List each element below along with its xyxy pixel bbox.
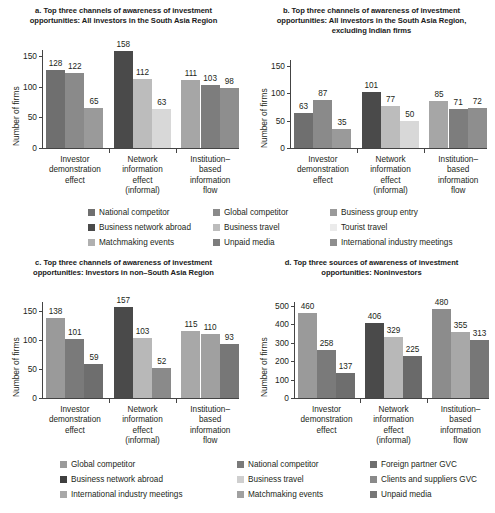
panel-d-plot: Number of firms0100200300400500460258137… (248, 302, 495, 454)
legend-label: Unpaid media (381, 490, 432, 499)
bar-value-label: 406 (362, 312, 387, 321)
legend-item: Business travel (237, 475, 304, 484)
bar (181, 80, 200, 148)
bar (298, 313, 317, 398)
legend-swatch (237, 476, 244, 483)
bar (84, 364, 103, 398)
legend-item: Global competitor (60, 460, 135, 469)
legend-item: Tourist travel (330, 223, 387, 232)
y-axis-line (42, 302, 43, 398)
bar (317, 350, 336, 398)
x-axis-tick-mark (176, 399, 177, 403)
panel-c-title: c. Top three channels of awareness of in… (0, 258, 247, 278)
panel-b-plot: Number of firms050100150638735Investorde… (248, 60, 495, 205)
y-axis-tick-mark (287, 93, 290, 94)
bar-value-label: 52 (149, 357, 174, 366)
bar-value-label: 158 (111, 40, 136, 49)
legend-item: Clients and suppliers GVC (370, 475, 477, 484)
x-axis-category-label: Networkinformationeffect(informal) (106, 155, 180, 197)
panel-a-plot: Number of firms05010015012812265Investor… (0, 50, 247, 205)
y-axis-tick-label: 0 (14, 393, 37, 403)
y-axis-tick-label: 100 (266, 375, 289, 385)
bar-value-label: 103 (130, 327, 155, 336)
legend-swatch (213, 209, 220, 216)
panel-a-title: a. Top three channels of awareness of in… (0, 6, 247, 26)
y-axis-tick-mark (287, 121, 290, 122)
legend-swatch (370, 491, 377, 498)
x-axis-category-label: Investordemonstrationeffect (286, 155, 360, 186)
legend-swatch (237, 491, 244, 498)
y-axis-tick-label: 0 (266, 393, 289, 403)
x-axis-category-label: Networkinformationeffect(informal) (106, 405, 180, 447)
x-axis-line (42, 398, 239, 399)
y-axis-tick-mark (39, 398, 42, 399)
legend-swatch (60, 476, 67, 483)
legend-item: Business group entry (330, 208, 418, 217)
y-axis-tick-label: 50 (262, 116, 285, 126)
bar (220, 88, 239, 148)
bar (332, 129, 351, 148)
legend-swatch (88, 224, 95, 231)
bar (201, 85, 220, 148)
legend-item: Global competitor (213, 208, 288, 217)
legend-item: Matchmaking events (88, 238, 174, 247)
bar (451, 332, 470, 398)
legend-item: National competitor (237, 460, 319, 469)
bar-value-label: 87 (310, 89, 335, 98)
y-axis-tick-label: 150 (14, 306, 37, 316)
x-axis-tick-mark (109, 149, 110, 153)
x-axis-category-label: Investordemonstrationeffect (38, 155, 112, 186)
y-axis-tick-mark (39, 311, 42, 312)
bar-value-label: 110 (198, 323, 223, 332)
x-axis-line (290, 148, 487, 149)
y-axis-tick-label: 50 (14, 112, 37, 122)
legend-item: Unpaid media (370, 490, 432, 499)
y-axis-tick-label: 300 (266, 338, 289, 348)
bar (114, 51, 133, 148)
y-axis-tick-label: 200 (266, 356, 289, 366)
y-axis-tick-mark (291, 324, 294, 325)
x-axis-tick-mark (357, 149, 358, 153)
legend-label: Unpaid media (224, 238, 275, 247)
legend-label: Business travel (224, 223, 280, 232)
x-axis-tick-mark (424, 149, 425, 153)
panel-b: b. Top three channels of awareness of in… (248, 6, 495, 206)
panel-d-title: d. Top three sources of awareness of inv… (248, 258, 495, 278)
legend-label: International industry meetings (341, 238, 453, 247)
panel-c: c. Top three channels of awareness of in… (0, 258, 247, 458)
bar-value-label: 138 (43, 307, 68, 316)
legend-item: International industry meetings (60, 490, 183, 499)
y-axis-tick-label: 100 (262, 88, 285, 98)
bar (449, 109, 468, 148)
bar-value-label: 460 (295, 302, 320, 311)
x-axis-category-label: Institution–basedinformationflow (173, 155, 247, 197)
bar (294, 113, 313, 148)
bar-value-label: 35 (329, 118, 354, 127)
legend-label: Global competitor (71, 460, 135, 469)
bar (400, 121, 419, 149)
y-axis-tick-mark (291, 380, 294, 381)
bar-value-label: 225 (400, 345, 425, 354)
bar (468, 108, 487, 148)
bar-value-label: 258 (314, 339, 339, 348)
legend-swatch (330, 239, 337, 246)
bar (403, 356, 422, 398)
legend-item: Foreign partner GVC (370, 460, 457, 469)
legend-label: Foreign partner GVC (381, 460, 457, 469)
y-axis-line (294, 302, 295, 398)
bar-value-label: 72 (465, 97, 490, 106)
x-axis-category-label: Institution–basedinformationflow (173, 405, 247, 447)
bar-value-label: 157 (111, 296, 136, 305)
y-axis-tick-mark (287, 66, 290, 67)
bar (133, 79, 152, 148)
panel-b-title: b. Top three channels of awareness of in… (248, 6, 495, 37)
legend-bottom: Global competitorNational competitorFore… (0, 458, 495, 506)
legend-swatch (330, 209, 337, 216)
y-axis-tick-label: 150 (262, 61, 285, 71)
bar-value-label: 329 (381, 326, 406, 335)
bar-value-label: 101 (359, 81, 384, 90)
y-axis-tick-label: 150 (14, 51, 37, 61)
y-axis-tick-mark (291, 398, 294, 399)
bar (336, 373, 355, 398)
bar-value-label: 480 (429, 298, 454, 307)
